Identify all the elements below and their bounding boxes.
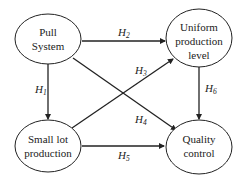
edge-label-h1: H1 (34, 83, 47, 97)
node-pull-system: Pull System (15, 14, 81, 64)
node-label: Small lot (28, 133, 68, 145)
node-label: Pull (39, 26, 57, 38)
edge-label-h5: H5 (117, 149, 130, 163)
edge-label-h6: H6 (204, 82, 217, 96)
node-quality-control: Quality control (166, 120, 232, 174)
edge-label-h2: H2 (117, 26, 130, 40)
node-label: Uniform (180, 21, 218, 33)
edge-label-h4: H4 (134, 113, 147, 127)
node-label: production (24, 147, 72, 159)
research-model-diagram: Pull System Uniform production level Sma… (0, 0, 245, 184)
node-label: level (188, 49, 209, 61)
node-uniform-production-level: Uniform production level (166, 9, 232, 67)
node-label: production (175, 35, 223, 47)
node-label: Quality (183, 133, 216, 145)
node-label: System (32, 40, 65, 52)
edge-h4 (73, 58, 176, 130)
node-small-lot-production: Small lot production (15, 120, 81, 172)
edge-label-h3: H3 (134, 64, 147, 78)
node-label: control (183, 147, 214, 159)
